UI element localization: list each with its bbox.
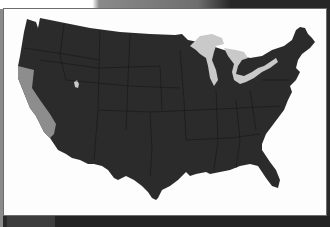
us-landmass [18, 18, 315, 200]
us-map [0, 0, 330, 227]
